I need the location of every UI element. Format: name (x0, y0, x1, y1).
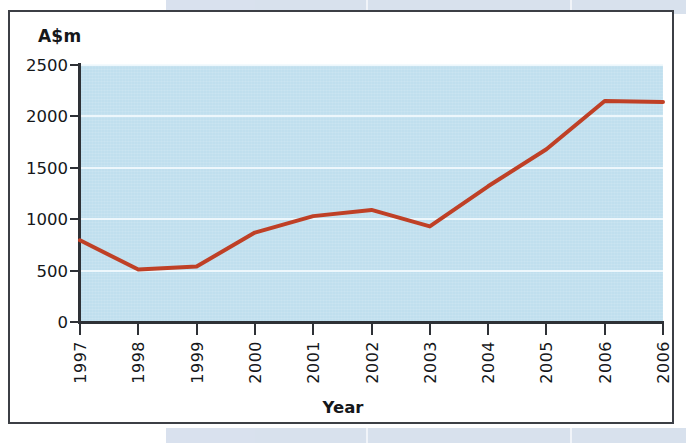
chart-screenshot: A$m 05001000150020002500 199719981999200… (0, 0, 686, 443)
data-series-layer (0, 0, 686, 443)
series-line (80, 101, 663, 270)
x-axis-title: Year (0, 398, 686, 417)
